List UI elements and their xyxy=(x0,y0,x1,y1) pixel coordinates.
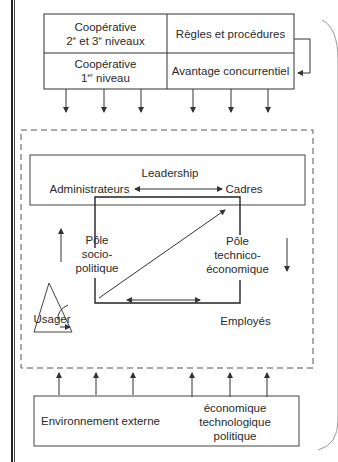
competitive-advantage: Avantage concurrentiel xyxy=(167,53,294,89)
pole-line: politique xyxy=(76,261,119,275)
administrators-label: Administrateurs xyxy=(47,182,132,196)
factor-political: politique xyxy=(214,429,257,443)
coop-label: Coopérative xyxy=(74,57,136,71)
employees-label: Employés xyxy=(218,314,273,328)
coop-1-level: Coopérative 1er niveau xyxy=(44,53,167,89)
rules-label: Règles et procédures xyxy=(176,27,285,41)
pole-line: technico- xyxy=(214,248,261,262)
right-bracket xyxy=(318,20,338,450)
rules-procedures: Règles et procédures xyxy=(167,14,294,53)
coop-label: Coopérative xyxy=(74,20,136,34)
pole-line: socio- xyxy=(82,247,113,261)
pole-line: économique xyxy=(206,262,269,276)
environment-factors: économique technologique politique xyxy=(185,400,285,444)
coop-level-label: 1er niveau xyxy=(81,71,130,85)
pole-socio-politique: Pôle socio- politique xyxy=(72,232,122,276)
factor-economic: économique xyxy=(204,401,267,415)
coop-2-3-levels: Coopérative 2e et 3e niveaux xyxy=(44,14,167,53)
pole-line: Pôle xyxy=(85,233,108,247)
pole-line: Pôle xyxy=(226,234,249,248)
user-label: Usager xyxy=(30,312,74,326)
external-environment-label: Environnement externe xyxy=(38,414,163,428)
leadership-label: Leadership xyxy=(135,166,205,180)
coop-levels-label: 2e et 3e niveaux xyxy=(66,34,144,48)
factor-technological: technologique xyxy=(199,415,271,429)
pole-technico-economique: Pôle technico- économique xyxy=(200,233,275,277)
advantage-label: Avantage concurrentiel xyxy=(172,64,289,78)
down-arrows xyxy=(66,89,268,112)
up-arrows xyxy=(59,373,267,397)
managers-label: Cadres xyxy=(223,182,265,196)
